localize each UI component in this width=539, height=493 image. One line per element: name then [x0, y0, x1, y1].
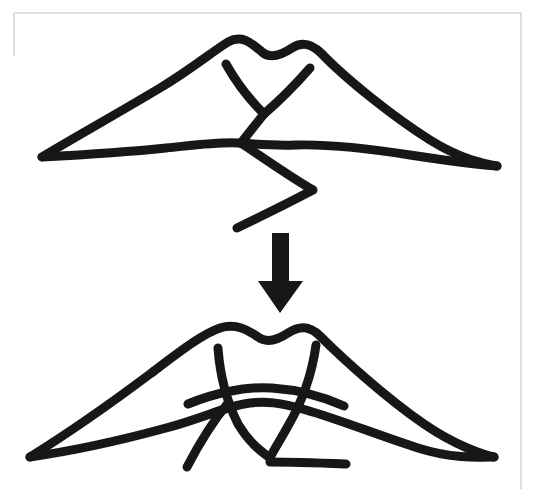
sketch-figure-root: [0, 0, 539, 493]
bottom-tail-stroke: [270, 462, 346, 464]
sketch-canvas: [0, 0, 539, 493]
